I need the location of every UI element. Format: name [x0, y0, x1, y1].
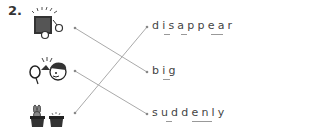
underline	[211, 34, 223, 35]
underline	[192, 121, 212, 122]
word-disappear: disappear	[152, 19, 235, 32]
word-big: big	[152, 64, 179, 77]
left-dot-3	[74, 112, 77, 115]
underline	[166, 121, 172, 122]
underline	[181, 34, 187, 35]
right-dot-2	[146, 71, 149, 74]
match-line-hats-to-disappear	[75, 27, 147, 113]
left-dot-2	[74, 70, 77, 73]
underline	[163, 79, 170, 80]
match-line-boy-to-suddenly	[75, 71, 147, 114]
underline	[164, 34, 170, 35]
word-suddenly: suddenly	[152, 106, 228, 119]
match-line-box-to-big	[75, 28, 147, 72]
left-dot-1	[74, 27, 77, 30]
right-dot-3	[146, 113, 149, 116]
right-dot-1	[146, 26, 149, 29]
